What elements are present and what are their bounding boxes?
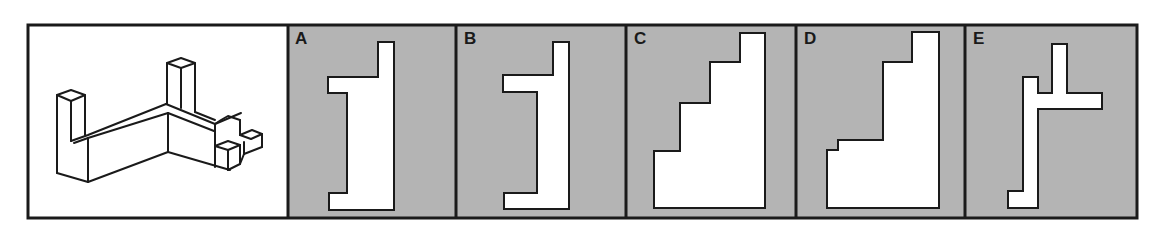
option-e-label: E bbox=[973, 29, 984, 48]
option-b-label: B bbox=[464, 29, 476, 48]
reference-panel bbox=[28, 25, 288, 218]
puzzle-diagram: A B C D E bbox=[0, 0, 1158, 234]
option-a-label: A bbox=[295, 29, 307, 48]
option-c-label: C bbox=[634, 29, 646, 48]
option-d-label: D bbox=[804, 29, 816, 48]
